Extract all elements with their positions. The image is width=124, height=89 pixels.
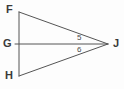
vertex-label-h: H — [5, 70, 13, 81]
segment-hj — [19, 44, 108, 76]
figure-canvas — [0, 0, 124, 89]
segment-group — [15, 12, 108, 76]
vertex-label-j: J — [113, 38, 119, 49]
segment-fj — [19, 12, 108, 44]
geometry-figure: F G H J 5 6 — [0, 0, 124, 89]
vertex-label-f: F — [6, 4, 13, 15]
vertex-label-g: G — [3, 38, 12, 49]
angle-label-5: 5 — [77, 34, 81, 42]
angle-label-6: 6 — [77, 46, 81, 54]
